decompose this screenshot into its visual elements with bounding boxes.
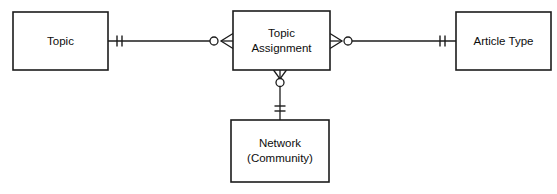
entity-network-community[interactable]: Network (Community) xyxy=(231,120,329,182)
entity-topic-assignment[interactable]: Topic Assignment xyxy=(233,11,330,70)
relationship-topic-assignment-to-article-type[interactable] xyxy=(330,34,456,49)
relationship-topic-assignment-to-network[interactable] xyxy=(274,70,287,120)
cardinality-zero-or-many-network-top xyxy=(274,70,287,87)
entity-network-community-label-line2: (Community) xyxy=(247,152,313,164)
entity-article-type-label: Article Type xyxy=(474,35,534,47)
relationship-topic-to-topic-assignment[interactable] xyxy=(108,34,233,49)
cardinality-zero-or-many-topic-assignment-right xyxy=(330,34,352,49)
cardinality-zero-or-many-topic-assignment-left xyxy=(210,34,233,49)
entity-topic-assignment-label-line2: Assignment xyxy=(251,42,312,54)
entity-topic-assignment-label-line1: Topic xyxy=(268,27,295,39)
entity-topic-label: Topic xyxy=(47,35,74,47)
entity-article-type[interactable]: Article Type xyxy=(456,12,551,70)
entity-topic[interactable]: Topic xyxy=(13,12,108,70)
er-diagram-canvas: Topic Topic Assignment Article Type Netw… xyxy=(0,0,557,194)
entity-network-community-box xyxy=(231,120,329,182)
er-diagram-svg: Topic Topic Assignment Article Type Netw… xyxy=(0,0,557,194)
entity-network-community-label-line1: Network xyxy=(259,137,301,149)
entity-topic-assignment-box xyxy=(233,11,330,70)
